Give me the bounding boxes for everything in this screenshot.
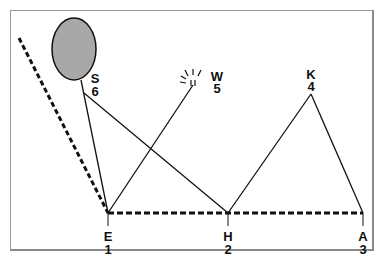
edge-s-h: [84, 93, 228, 213]
label-a-number: 3: [356, 243, 370, 256]
light-burst-icon: [180, 69, 201, 86]
label-e-number: 1: [101, 243, 115, 256]
diagram-canvas: [0, 0, 386, 263]
label-k-number: 4: [304, 80, 318, 93]
label-s-number: 6: [88, 85, 102, 98]
edge-k-a: [311, 94, 363, 213]
edge-e-w: [108, 85, 193, 213]
ellipse-s-icon: [52, 18, 96, 80]
label-w-number: 5: [210, 82, 224, 95]
edge-s-e: [81, 80, 108, 213]
label-h-number: 2: [221, 243, 235, 256]
edge-h-k: [228, 94, 311, 213]
